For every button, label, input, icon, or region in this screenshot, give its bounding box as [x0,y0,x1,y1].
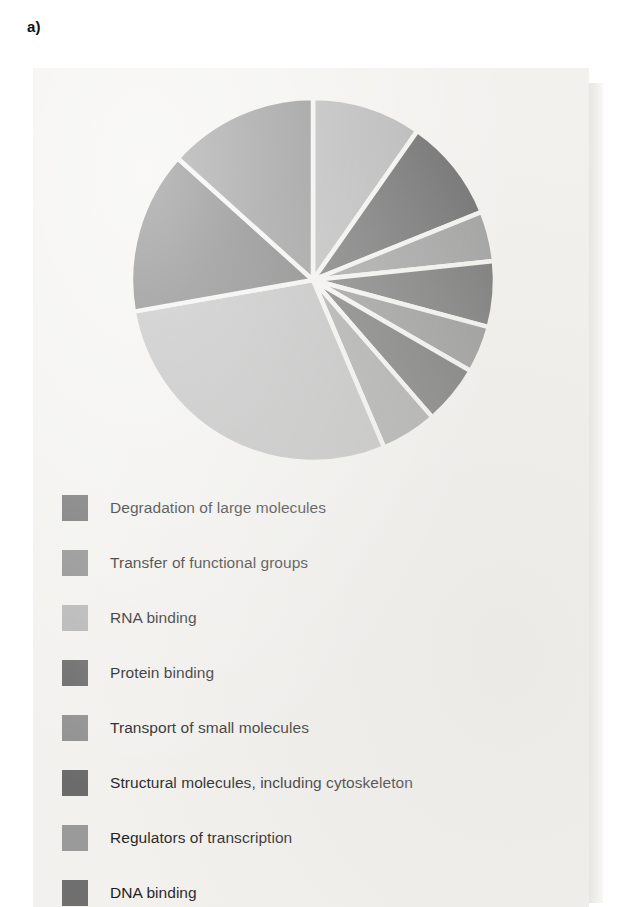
legend-item: Degradation of large molecules [62,480,582,535]
legend-item-label: Transport of small molecules [110,719,309,737]
legend-swatch [62,605,88,631]
legend-swatch [62,495,88,521]
chart-legend: Degradation of large moleculesTransfer o… [62,480,582,907]
legend-item-label: Regulators of transcription [110,829,292,847]
legend-item: DNA binding [62,865,582,907]
legend-item-label: RNA binding [110,609,197,627]
legend-swatch [62,880,88,906]
panel-label: a) [27,18,41,35]
figure-panel-a: a) Degradation of large moleculesTransfe… [0,0,633,907]
pie-chart-svg [33,68,589,538]
legend-item: Structural molecules, including cytoskel… [62,755,582,810]
legend-item-label: Protein binding [110,664,214,682]
legend-item: RNA binding [62,590,582,645]
legend-swatch [62,825,88,851]
legend-swatch [62,715,88,741]
pie-chart [33,68,589,538]
legend-swatch [62,770,88,796]
legend-swatch [62,550,88,576]
legend-item-label: Structural molecules, including cytoskel… [110,774,413,792]
pie-slice-group [131,98,495,462]
legend-item-label: Transfer of functional groups [110,554,308,572]
legend-swatch [62,660,88,686]
legend-item-label: Degradation of large molecules [110,499,326,517]
legend-item: Protein binding [62,645,582,700]
legend-item-label: DNA binding [110,884,197,902]
legend-item: Transport of small molecules [62,700,582,755]
legend-item: Regulators of transcription [62,810,582,865]
page-shadow-strip [589,83,603,903]
figure-background-panel: Degradation of large moleculesTransfer o… [33,68,589,907]
legend-item: Transfer of functional groups [62,535,582,590]
